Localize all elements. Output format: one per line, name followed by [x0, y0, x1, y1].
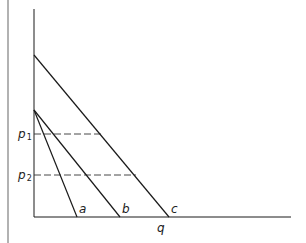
demand-diagram: p1 p2 a b c q: [0, 0, 306, 243]
curve-a-label: a: [79, 202, 86, 216]
p2-label: p2: [17, 168, 32, 183]
x-axis-label: q: [157, 221, 165, 235]
curve-b-label: b: [122, 202, 130, 216]
p1-label: p1: [17, 127, 32, 142]
curve-c-label: c: [171, 202, 178, 216]
curve-b: [34, 110, 120, 217]
curve-a: [34, 110, 77, 217]
